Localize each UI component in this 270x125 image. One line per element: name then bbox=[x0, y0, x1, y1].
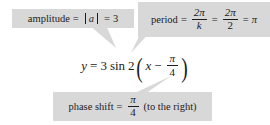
period-label: period bbox=[151, 14, 178, 25]
period-fraction-1-numerator: 2π bbox=[192, 7, 207, 18]
equation-minus: − bbox=[154, 58, 161, 74]
equation-phase-denominator: 4 bbox=[167, 67, 177, 78]
amplitude-label: amplitude bbox=[28, 13, 70, 24]
equation-equals: = bbox=[90, 58, 97, 74]
absolute-value-bar-right bbox=[97, 13, 98, 24]
equation-amplitude: 3 bbox=[100, 58, 107, 74]
main-equation: y = 3 sin 2 ( x − π 4 ) bbox=[0, 48, 270, 84]
figure-canvas: amplitude = a = 3 period = 2π k = 2π 2 = bbox=[0, 0, 270, 125]
period-fraction-2: 2π 2 bbox=[223, 7, 238, 31]
amplitude-equals-1: = bbox=[73, 13, 79, 24]
phase-shift-callout: phase shift = π 4 (to the right) bbox=[53, 92, 212, 121]
amplitude-pointer-tail bbox=[92, 28, 116, 49]
period-callout: period = 2π k = 2π 2 = π bbox=[138, 2, 270, 37]
phase-shift-fraction: π 4 bbox=[128, 94, 139, 118]
period-result: π bbox=[252, 14, 257, 25]
period-equals-2: = bbox=[212, 14, 218, 25]
amplitude-value: 3 bbox=[113, 13, 118, 24]
phase-shift-equals: = bbox=[117, 101, 123, 112]
equation-lhs: y bbox=[81, 58, 87, 74]
equation-phase-fraction: π 4 bbox=[167, 53, 178, 77]
phase-shift-direction: (to the right) bbox=[144, 101, 197, 112]
phase-shift-label: phase shift bbox=[68, 101, 113, 112]
phase-shift-denominator: 4 bbox=[128, 107, 138, 118]
equation-phase-numerator: π bbox=[167, 53, 177, 64]
period-fraction-1: 2π k bbox=[192, 7, 207, 31]
period-equals-1: = bbox=[181, 14, 187, 25]
equation-k: 2 bbox=[128, 58, 135, 74]
amplitude-callout: amplitude = a = 3 bbox=[12, 9, 134, 28]
period-fraction-2-numerator: 2π bbox=[223, 7, 238, 18]
period-equals-3: = bbox=[243, 14, 249, 25]
absolute-value-bar-left bbox=[85, 13, 86, 24]
equation-sin: sin bbox=[110, 58, 125, 74]
amplitude-equals-2: = bbox=[104, 13, 110, 24]
amplitude-symbol-a: a bbox=[89, 13, 94, 24]
period-fraction-2-denominator: 2 bbox=[225, 20, 235, 31]
equation-variable: x bbox=[146, 58, 152, 74]
period-fraction-1-denominator: k bbox=[195, 20, 204, 31]
phase-shift-numerator: π bbox=[128, 94, 138, 105]
